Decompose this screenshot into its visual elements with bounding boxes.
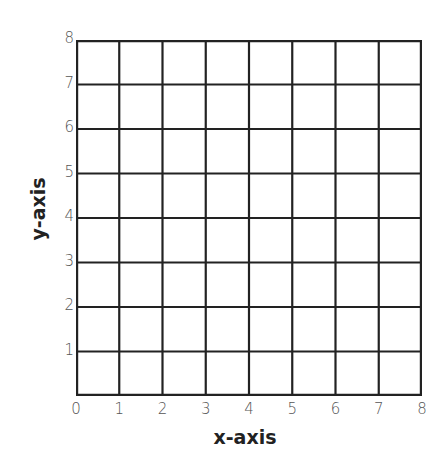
x-tick-label: 5 xyxy=(287,402,297,417)
y-tick-label: 1 xyxy=(58,342,74,357)
x-tick-label: 2 xyxy=(158,402,168,417)
coordinate-grid xyxy=(76,40,422,396)
x-tick-label: 0 xyxy=(71,402,81,417)
x-tick-label: 1 xyxy=(114,402,124,417)
x-axis-label: x-axis xyxy=(213,426,276,448)
x-tick-label: 7 xyxy=(374,402,384,417)
x-tick-label: 6 xyxy=(331,402,341,417)
y-axis-label: y-axis xyxy=(27,177,49,240)
y-tick-label: 2 xyxy=(58,298,74,313)
y-tick-label: 4 xyxy=(58,209,74,224)
y-tick-label: 8 xyxy=(58,31,74,46)
y-tick-label: 7 xyxy=(58,75,74,90)
x-tick-label: 4 xyxy=(244,402,254,417)
x-tick-label: 8 xyxy=(417,402,427,417)
y-tick-label: 6 xyxy=(58,120,74,135)
y-tick-label: 3 xyxy=(58,253,74,268)
y-tick-label: 5 xyxy=(58,164,74,179)
x-tick-label: 3 xyxy=(201,402,211,417)
